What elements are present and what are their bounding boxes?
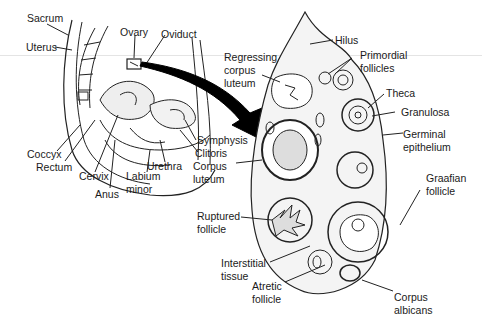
label-regressing-3: luteum	[224, 77, 256, 89]
label-oviduct: Oviduct	[161, 28, 197, 40]
label-uterus: Uterus	[26, 41, 57, 53]
label-clitoris: Clitoris	[195, 147, 227, 159]
label-corpus-luteum-1: Corpus	[193, 160, 227, 172]
label-atretic-1: Atretic	[252, 280, 282, 292]
label-labium-2: minor	[126, 183, 152, 195]
label-rectum: Rectum	[36, 161, 72, 173]
label-anus: Anus	[95, 188, 119, 200]
label-corpus-luteum-2: luteum	[193, 173, 225, 185]
label-albicans-1: Corpus	[394, 291, 428, 303]
label-cervix: Cervix	[79, 170, 109, 182]
label-germinal-1: Germinal	[403, 128, 446, 140]
label-ruptured-1: Ruptured	[197, 210, 240, 222]
label-theca: Theca	[386, 87, 415, 99]
label-coccyx: Coccyx	[27, 148, 61, 160]
label-sacrum: Sacrum	[27, 12, 63, 24]
label-primordial-1: Primordial	[360, 49, 407, 61]
label-symphysis: Symphysis	[197, 134, 248, 146]
label-interstitial-2: tissue	[221, 270, 248, 282]
label-graafian-1: Graafian	[426, 172, 466, 184]
label-germinal-2: epithelium	[403, 141, 451, 153]
label-hilus: Hilus	[335, 34, 358, 46]
label-urethra: Urethra	[147, 160, 182, 172]
label-primordial-2: follicles	[360, 62, 394, 74]
label-ruptured-2: follicle	[197, 223, 226, 235]
label-interstitial-1: Interstitial	[221, 257, 266, 269]
label-regressing-1: Regressing	[224, 51, 277, 63]
label-albicans-2: albicans	[394, 304, 433, 316]
label-regressing-2: corpus	[224, 64, 256, 76]
label-ovary: Ovary	[120, 26, 148, 38]
label-graafian-2: follicle	[426, 185, 455, 197]
label-atretic-2: follicle	[252, 293, 281, 305]
label-granulosa: Granulosa	[401, 106, 449, 118]
